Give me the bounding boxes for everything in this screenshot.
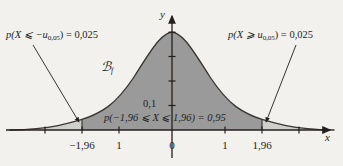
x-tick-label-neg-1-96: −1,96 — [69, 139, 94, 151]
central-probability-label: p(−1,96 ⩽ X ⩽ 1,96) = 0,95 — [104, 113, 226, 124]
curve-name-symbol: ℬ — [101, 59, 111, 74]
right-tail-prefix: p(X ⩾ u — [228, 29, 263, 40]
x-tick-label-neg-1: 1 — [116, 139, 122, 151]
right-tail-shaded-region — [262, 119, 334, 130]
left-tail-subscript: 0,05 — [48, 34, 60, 42]
left-annotation-leader-line — [33, 45, 79, 122]
right-annotation-leader-line — [266, 45, 296, 122]
x-tick-label-1-96: 1,96 — [252, 139, 271, 151]
x-tick-label-1: 1 — [222, 139, 228, 151]
curve-name-label: ℬf — [101, 60, 113, 75]
normal-distribution-figure: p(X ⩽ −u0,05) = 0,025 p(X ⩾ u0,05) = 0,0… — [0, 0, 343, 166]
left-tail-prefix: p(X ⩽ −u — [6, 29, 48, 40]
x-tick-label-0: 0 — [169, 139, 175, 151]
right-tail-suffix: ) = 0,025 — [275, 29, 313, 40]
y-axis-label: y — [160, 9, 165, 20]
left-tail-shaded-region — [10, 119, 82, 130]
right-tail-probability-label: p(X ⩾ u0,05) = 0,025 — [228, 30, 313, 42]
right-tail-subscript: 0,05 — [263, 34, 275, 42]
y-tick-label-0-1: 0,1 — [143, 99, 156, 110]
left-tail-probability-label: p(X ⩽ −u0,05) = 0,025 — [6, 30, 98, 42]
left-tail-suffix: ) = 0,025 — [60, 29, 98, 40]
curve-name-subscript: f — [111, 66, 113, 75]
x-axis-label: x — [325, 132, 330, 143]
